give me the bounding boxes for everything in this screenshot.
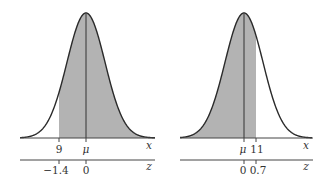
right-normal-curve-panel: μ 11 x 0 0.7 z: [180, 13, 313, 176]
right-x-axis-label: x: [303, 139, 309, 151]
left-x-tick-label-9: 9: [56, 143, 63, 155]
left-normal-curve-panel: 9 μ x −1.4 0 z: [20, 13, 155, 176]
left-x-axis-label: x: [146, 139, 152, 151]
left-z-tick-label-neg14: −1.4: [43, 164, 69, 176]
right-z-axis-label: z: [302, 160, 309, 172]
right-shaded-area: [180, 13, 256, 138]
right-z-tick-label-07: 0.7: [250, 164, 267, 176]
normal-curves-figure: 9 μ x −1.4 0 z μ 11 x 0 0.7 z: [0, 0, 333, 183]
left-z-axis-label: z: [145, 160, 152, 172]
left-shaded-area: [59, 13, 155, 138]
right-x-tick-label-11: 11: [250, 143, 263, 155]
right-x-tick-label-mu: μ: [240, 143, 247, 155]
right-z-tick-label-0: 0: [240, 164, 247, 176]
left-x-tick-label-mu: μ: [83, 143, 90, 155]
left-z-tick-label-0: 0: [83, 164, 90, 176]
